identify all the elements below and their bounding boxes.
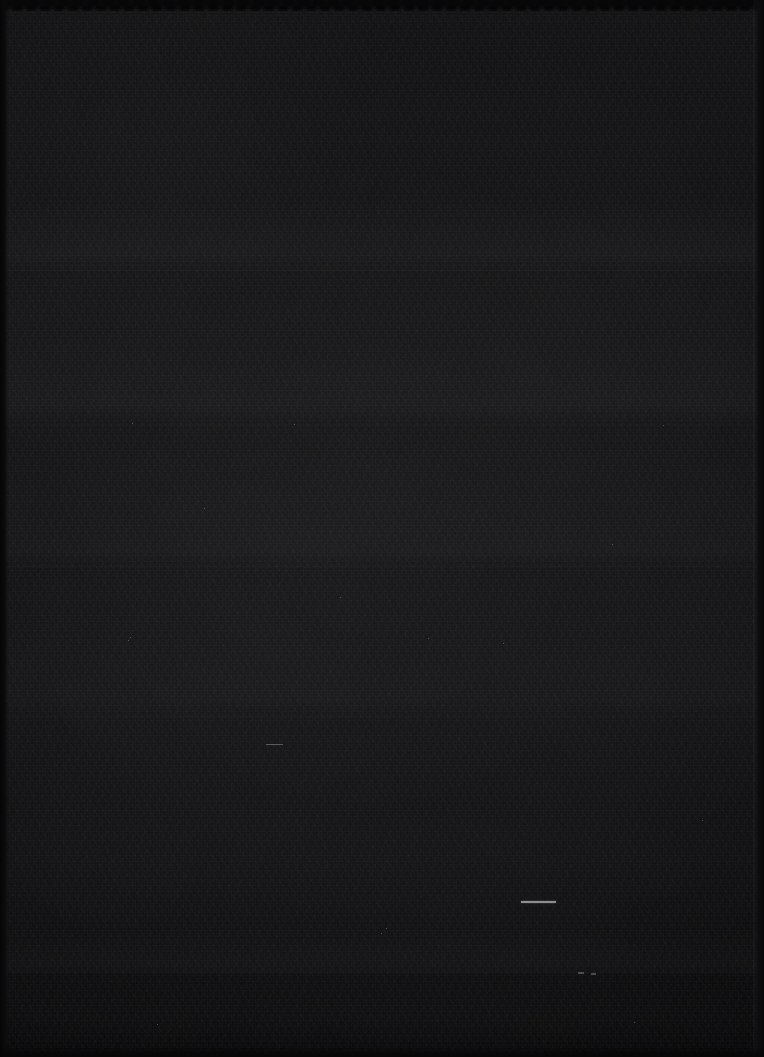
band-seam-270 xyxy=(0,270,764,271)
faint-mark-upper-left xyxy=(266,744,283,745)
hot-pixel xyxy=(132,423,133,424)
band-seam-424 xyxy=(0,424,764,425)
hot-pixel xyxy=(340,597,341,598)
band-seam-566 xyxy=(0,566,764,567)
hot-pixel xyxy=(294,424,295,425)
hot-pixel xyxy=(428,638,429,639)
hot-pixel xyxy=(204,508,205,509)
hot-pixel xyxy=(634,1022,635,1023)
top-edge-scallop xyxy=(0,6,764,11)
dark-frame-canvas: Almost entirely black, heavily underexpo… xyxy=(0,0,764,1057)
hot-pixel xyxy=(386,928,387,929)
hot-pixel xyxy=(128,640,129,641)
band-seam-972 xyxy=(0,972,764,973)
hot-pixel xyxy=(702,820,703,821)
bottom-edge-strip xyxy=(0,1047,764,1057)
hot-pixel xyxy=(157,1024,158,1025)
hot-pixel xyxy=(663,425,664,426)
hot-pixel xyxy=(503,643,504,644)
vignette-layer xyxy=(0,0,764,1057)
band-seam-716 xyxy=(0,716,764,717)
right-edge-strip xyxy=(754,0,764,1057)
faint-mark-lower-right-a xyxy=(578,972,584,974)
hot-pixel xyxy=(612,544,613,545)
left-edge-strip xyxy=(0,0,8,1057)
hot-pixel xyxy=(130,637,131,638)
faint-mark-lower-right-b xyxy=(591,973,596,975)
hot-pixel xyxy=(381,933,382,934)
highlight-line xyxy=(521,901,556,903)
